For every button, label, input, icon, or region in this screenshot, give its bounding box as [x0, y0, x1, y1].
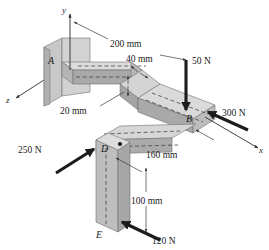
point-label-b: B	[186, 113, 192, 124]
z-axis-label: z	[5, 95, 10, 105]
statics-figure: z	[0, 0, 269, 250]
force-120n-label: 120 N	[152, 236, 176, 246]
point-label-a: A	[47, 55, 55, 66]
dimension-200mm-label: 200 mm	[110, 39, 142, 49]
figure-background	[0, 0, 269, 250]
dimension-40mm-label: 40 mm	[126, 54, 153, 64]
x-axis-label: x	[258, 145, 263, 155]
y-axis-label: y	[61, 5, 66, 15]
force-300n-label: 300 N	[222, 108, 246, 118]
dimension-160mm-label: 160 mm	[146, 150, 178, 160]
dimension-100mm-label: 100 mm	[131, 196, 163, 206]
force-250n-label: 250 N	[18, 145, 42, 155]
force-50n-label: 50 N	[192, 56, 211, 66]
point-label-d: D	[100, 143, 109, 154]
point-label-e: E	[95, 229, 102, 240]
dimension-20mm-label: 20 mm	[60, 106, 87, 116]
figure-canvas: z	[0, 0, 269, 250]
point-marker-d	[118, 142, 122, 146]
